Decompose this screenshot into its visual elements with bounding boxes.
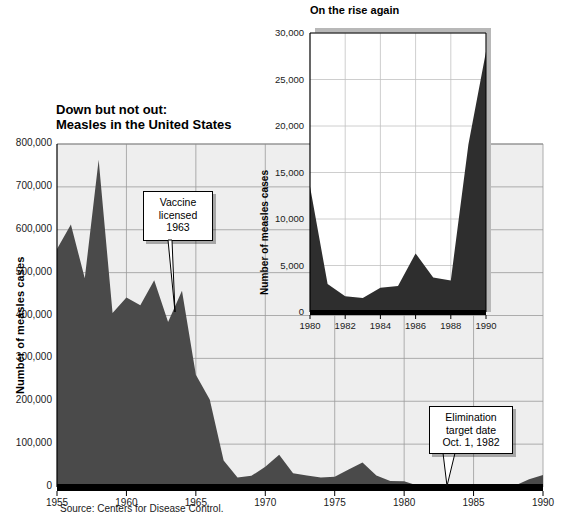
callout-elimination-target: Elimination target date Oct. 1, 1982	[429, 406, 513, 454]
callout-vaccine-pointer	[168, 240, 175, 312]
figure-root: 0100,000200,000300,000400,000500,000600,…	[0, 0, 561, 520]
callout-elimination-pointer	[443, 453, 455, 486]
